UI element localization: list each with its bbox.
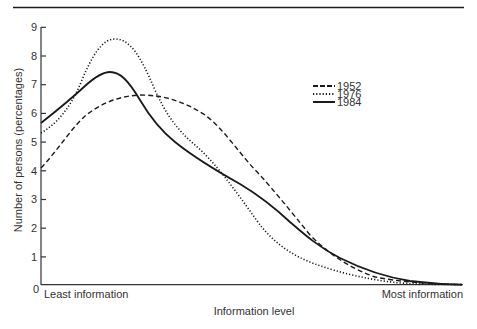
- line-chart: 9 8 7 6 5 4 3 2 1 0 Number of persons (p…: [0, 0, 477, 329]
- x-axis-left-label: Least information: [44, 288, 128, 300]
- svg-text:9: 9: [31, 21, 37, 33]
- y-axis-title: Number of persons (percentages): [12, 68, 24, 232]
- legend: 1952 1976 1984: [313, 80, 361, 108]
- svg-text:1984: 1984: [337, 96, 361, 108]
- svg-text:6: 6: [31, 107, 37, 119]
- x-axis-right-label: Most information: [382, 288, 463, 300]
- legend-item-1984: 1984: [313, 96, 361, 108]
- svg-text:3: 3: [31, 193, 37, 205]
- y-axis: [41, 27, 46, 285]
- series-1952-dashed: [41, 95, 462, 285]
- svg-text:0: 0: [33, 283, 39, 295]
- svg-text:8: 8: [31, 50, 37, 62]
- svg-text:4: 4: [31, 165, 37, 177]
- svg-text:5: 5: [31, 136, 37, 148]
- svg-text:1: 1: [31, 251, 37, 263]
- svg-text:7: 7: [31, 78, 37, 90]
- series-1976-dotted: [41, 39, 462, 285]
- y-tick-labels: 9 8 7 6 5 4 3 2 1 0: [31, 21, 39, 295]
- svg-text:2: 2: [31, 222, 37, 234]
- x-axis-title: Information level: [214, 305, 295, 317]
